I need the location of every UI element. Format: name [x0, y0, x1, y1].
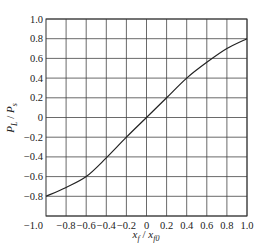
y-label-sub2: s — [10, 103, 19, 106]
x-tick-label: 0.8 — [220, 220, 233, 231]
y-tick-label: 0.2 — [30, 92, 43, 103]
y-tick-label: 0 — [38, 112, 43, 123]
y-tick-label: −0.8 — [24, 191, 43, 202]
y-axis-label: PL / Ps — [4, 103, 19, 134]
x-tick-label: −0.8 — [57, 220, 76, 231]
x-axis-label: xf / xf0 — [132, 228, 160, 243]
x-tick-label: 0.2 — [160, 220, 173, 231]
x-tick-label: 0.4 — [180, 220, 194, 231]
y-tick-label: −0.4 — [24, 151, 44, 162]
chart: −0.8−0.6−0.4−0.200.20.40.60.81.0 −1.0−0.… — [0, 0, 266, 250]
y-tick-label: 0.4 — [30, 73, 44, 84]
y-label-sep: / — [4, 113, 16, 122]
y-tick-labels: −1.0−0.8−0.6−0.4−0.200.20.40.60.81.0 — [24, 14, 44, 232]
x-tick-labels: −0.8−0.6−0.4−0.200.20.40.60.81.0 — [57, 220, 254, 231]
y-tick-label: −0.2 — [24, 132, 43, 143]
y-tick-label: 0.6 — [30, 53, 43, 64]
x-label-sub2: f0 — [153, 234, 159, 243]
y-tick-label: −1.0 — [24, 220, 43, 231]
y-tick-label: −0.6 — [24, 171, 43, 182]
x-tick-label: 1.0 — [240, 220, 253, 231]
x-tick-label: −0.6 — [77, 220, 96, 231]
x-tick-label: 0.6 — [200, 220, 213, 231]
x-tick-label: −0.4 — [97, 220, 117, 231]
y-tick-label: 1.0 — [30, 14, 43, 25]
x-label-sep: / — [140, 228, 149, 240]
y-tick-label: 0.8 — [30, 33, 43, 44]
